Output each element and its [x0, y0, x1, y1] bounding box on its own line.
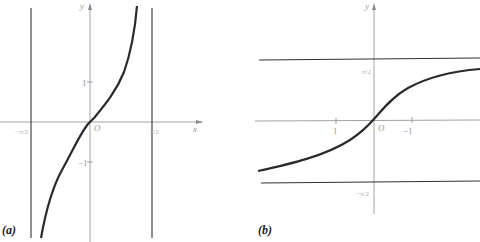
y-tick-label-neg-a: −1	[78, 158, 88, 168]
y-tick-label-pos-a: 1	[82, 78, 87, 88]
panel-label-b-text: (b)	[258, 223, 272, 237]
y-tick-label-pos-b: π/2	[362, 68, 371, 76]
x-axis-b	[255, 120, 480, 121]
origin-label-a: O	[94, 123, 101, 133]
x-tick-label-left-b: 1	[333, 126, 338, 136]
panel-label-b: (b)	[258, 223, 272, 238]
origin-label-b: O	[378, 123, 385, 133]
y-axis-label-b: y	[364, 1, 369, 11]
y-axis-label-a: y	[79, 1, 84, 11]
panel-label-a: (a)	[2, 223, 16, 238]
y-axis-arrow-icon	[88, 3, 92, 10]
x-tick-label-neg-a: −π/2	[15, 128, 28, 136]
y-axis-arrow-icon	[372, 3, 376, 10]
x-tick-label-right-b: −1	[403, 126, 413, 136]
figure-canvas: y x O 1 −1 −π/2 π/2 y O 1 −1 π/2 −π/2	[0, 0, 480, 242]
panel-label-a-text: (a)	[2, 223, 16, 237]
panel-b: y O 1 −1 π/2 −π/2	[255, 1, 480, 214]
asymptote-upper-b	[259, 58, 480, 60]
x-axis-label-a: x	[192, 124, 197, 134]
y-tick-label-neg-b: −π/2	[356, 190, 369, 198]
x-axis-arrow-icon	[196, 120, 203, 124]
panel-a: y x O 1 −1 −π/2 π/2	[0, 1, 203, 242]
asymptote-lower-b	[261, 181, 480, 183]
x-tick-label-pos-a: π/2	[150, 128, 159, 136]
